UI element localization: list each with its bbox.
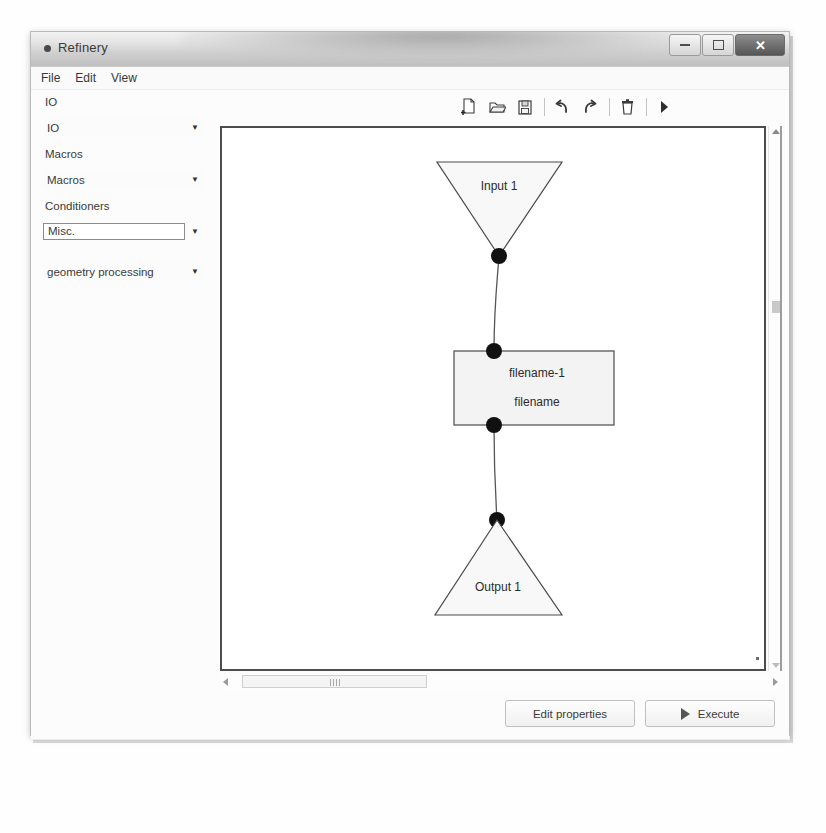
sidebar-label-conditioners: Conditioners	[45, 200, 110, 212]
toolbar-separator	[646, 98, 647, 116]
toolbar	[216, 90, 791, 130]
sidebar-label-macros: Macros	[45, 148, 83, 160]
maximize-icon[interactable]	[702, 34, 734, 56]
window-body: IO IO ▼ Macros Macros ▼ Conditioners Mis…	[31, 90, 789, 739]
scroll-thumb-grip	[330, 679, 340, 686]
canvas-horizontal-scrollbar[interactable]	[220, 674, 782, 690]
toolbar-separator	[544, 98, 545, 116]
play-icon	[681, 708, 690, 720]
graph-canvas[interactable]: Input 1 filename-1 filename	[220, 126, 766, 671]
port-filename-in	[486, 343, 502, 359]
open-file-icon[interactable]	[484, 95, 510, 119]
run-icon[interactable]	[651, 95, 677, 119]
execute-label: Execute	[698, 708, 740, 720]
node-input-1-label: Input 1	[481, 179, 518, 193]
port-input-1-out	[491, 248, 507, 264]
graph-canvas-svg: Input 1 filename-1 filename	[222, 128, 764, 669]
sidebar-combo-conditioners-value: Misc.	[43, 223, 185, 240]
save-file-icon[interactable]	[512, 95, 538, 119]
title-bar[interactable]: Refinery ✕	[31, 32, 789, 67]
redo-icon[interactable]	[577, 95, 603, 119]
scroll-left-icon[interactable]	[223, 678, 228, 686]
window-controls: ✕	[668, 34, 785, 56]
vertical-scroll-track	[780, 126, 782, 671]
menu-bar: File Edit View	[31, 67, 789, 90]
chevron-down-icon: ▼	[187, 268, 203, 276]
footer-button-row: Edit properties Execute	[495, 700, 775, 727]
sidebar-combo-geometry-processing[interactable]: geometry processing ▼	[43, 262, 203, 281]
edit-properties-button[interactable]: Edit properties	[505, 700, 635, 727]
execute-button[interactable]: Execute	[645, 700, 775, 727]
toolbar-separator	[609, 98, 610, 116]
refinery-window: Refinery ✕ File Edit View IO IO ▼ Macro	[30, 31, 790, 736]
menu-item-file[interactable]: File	[41, 71, 60, 85]
edge-input-to-filename	[494, 256, 499, 351]
node-filename-label-2: filename	[514, 395, 560, 409]
scroll-right-icon[interactable]	[773, 678, 778, 686]
node-input-1: Input 1	[437, 162, 562, 256]
node-output-1: Output 1	[435, 520, 562, 615]
delete-icon[interactable]	[614, 95, 640, 119]
process-box-shape	[454, 351, 614, 425]
sidebar-combo-io-value: IO	[43, 122, 187, 134]
horizontal-scroll-thumb[interactable]	[242, 675, 427, 688]
undo-icon[interactable]	[549, 95, 575, 119]
new-file-icon[interactable]	[456, 95, 482, 119]
sidebar-combo-conditioners[interactable]: Misc. ▼	[43, 222, 203, 241]
app-dot-icon	[44, 45, 51, 52]
sidebar-label-io: IO	[45, 96, 57, 108]
scroll-up-icon[interactable]	[772, 129, 780, 134]
edit-properties-label: Edit properties	[533, 708, 607, 720]
resize-dot-marker	[756, 657, 759, 660]
node-output-1-label: Output 1	[475, 580, 521, 594]
port-filename-out	[486, 417, 502, 433]
sidebar-combo-macros-value: Macros	[43, 174, 187, 186]
palette-sidebar: IO IO ▼ Macros Macros ▼ Conditioners Mis…	[31, 90, 216, 739]
chevron-down-icon: ▼	[187, 124, 203, 132]
canvas-vertical-scrollbar[interactable]	[768, 126, 782, 671]
close-icon[interactable]: ✕	[735, 34, 785, 56]
chevron-down-icon: ▼	[187, 228, 203, 236]
sidebar-combo-geometry-processing-value: geometry processing	[43, 266, 187, 278]
edge-filename-to-output	[494, 425, 497, 520]
vertical-scroll-thumb[interactable]	[772, 301, 780, 313]
node-filename-label-1: filename-1	[509, 366, 565, 380]
screen-root: Refinery ✕ File Edit View IO IO ▼ Macro	[0, 0, 826, 833]
window-title: Refinery	[58, 40, 108, 55]
sidebar-combo-io[interactable]: IO ▼	[43, 118, 203, 137]
input-triangle-shape	[437, 162, 562, 256]
node-filename: filename-1 filename	[454, 351, 614, 425]
sidebar-combo-macros[interactable]: Macros ▼	[43, 170, 203, 189]
output-triangle-shape	[435, 520, 562, 615]
scroll-down-icon[interactable]	[772, 663, 780, 668]
chevron-down-icon: ▼	[187, 176, 203, 184]
menu-item-view[interactable]: View	[111, 71, 137, 85]
menu-item-edit[interactable]: Edit	[75, 71, 96, 85]
titlebar-gloss	[181, 32, 701, 56]
minimize-icon[interactable]	[669, 34, 701, 56]
